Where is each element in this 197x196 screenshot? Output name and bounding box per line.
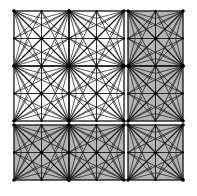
midpoint-node bbox=[123, 38, 125, 40]
corner-node bbox=[122, 9, 126, 13]
midpoint-node bbox=[41, 124, 43, 126]
midpoint-node bbox=[96, 10, 98, 12]
midpoint-node bbox=[155, 120, 157, 122]
midpoint-node bbox=[127, 38, 129, 40]
midpoint-node bbox=[13, 152, 15, 154]
corner-node bbox=[67, 178, 71, 182]
midpoint-node bbox=[123, 152, 125, 154]
midpoint-node bbox=[182, 152, 184, 154]
midpoint-node bbox=[41, 179, 43, 181]
corner-node bbox=[122, 178, 126, 182]
corner-node bbox=[122, 123, 126, 127]
midpoint-node bbox=[41, 120, 43, 122]
corner-node bbox=[122, 119, 126, 123]
center-node bbox=[40, 37, 43, 40]
corner-node bbox=[12, 123, 16, 127]
mesh-diagram bbox=[0, 0, 197, 196]
midpoint-node bbox=[68, 152, 70, 154]
midpoint-node bbox=[155, 179, 157, 181]
corner-node bbox=[12, 178, 16, 182]
corner-node bbox=[181, 119, 185, 123]
corner-node bbox=[122, 64, 126, 68]
mesh-figure bbox=[0, 0, 197, 196]
midpoint-node bbox=[96, 120, 98, 122]
corner-node bbox=[12, 9, 16, 13]
midpoint-node bbox=[96, 124, 98, 126]
corner-node bbox=[12, 64, 16, 68]
corner-node bbox=[67, 64, 71, 68]
center-node bbox=[154, 37, 157, 40]
center-node bbox=[95, 37, 98, 40]
corner-node bbox=[126, 64, 130, 68]
figure-root bbox=[0, 0, 197, 196]
corner-node bbox=[126, 178, 130, 182]
midpoint-node bbox=[68, 38, 70, 40]
midpoint-node bbox=[41, 65, 43, 67]
midpoint-node bbox=[127, 93, 129, 95]
center-node bbox=[154, 151, 157, 154]
corner-node bbox=[181, 64, 185, 68]
midpoint-node bbox=[41, 10, 43, 12]
corner-node bbox=[181, 123, 185, 127]
midpoint-node bbox=[155, 10, 157, 12]
midpoint-node bbox=[96, 65, 98, 67]
corner-node bbox=[181, 178, 185, 182]
center-node bbox=[95, 92, 98, 95]
midpoint-node bbox=[13, 93, 15, 95]
corner-node bbox=[67, 9, 71, 13]
midpoint-node bbox=[13, 38, 15, 40]
midpoint-node bbox=[127, 152, 129, 154]
center-node bbox=[40, 92, 43, 95]
midpoint-node bbox=[155, 124, 157, 126]
midpoint-node bbox=[96, 179, 98, 181]
corner-node bbox=[67, 119, 71, 123]
corner-node bbox=[12, 119, 16, 123]
midpoint-node bbox=[123, 93, 125, 95]
center-node bbox=[95, 151, 98, 154]
corner-node bbox=[126, 123, 130, 127]
midpoint-node bbox=[155, 65, 157, 67]
center-node bbox=[40, 151, 43, 154]
midpoint-node bbox=[182, 93, 184, 95]
block-meshes bbox=[14, 11, 183, 180]
corner-node bbox=[67, 123, 71, 127]
corner-node bbox=[181, 9, 185, 13]
midpoint-node bbox=[68, 93, 70, 95]
corner-node bbox=[126, 119, 130, 123]
center-node bbox=[154, 92, 157, 95]
corner-node bbox=[126, 9, 130, 13]
midpoint-node bbox=[182, 38, 184, 40]
